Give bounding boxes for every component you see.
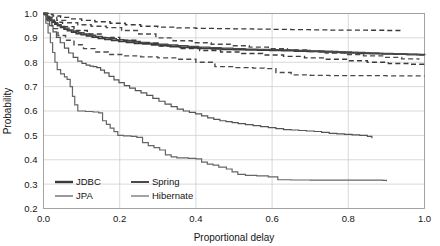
legend-label-hibernate: Hibernate <box>152 190 193 201</box>
y-tick-label: 0.6 <box>24 105 37 116</box>
y-tick-label: 0.8 <box>24 57 37 68</box>
chart-container: 0.00.20.40.60.81.0 0.20.30.40.50.60.70.8… <box>0 0 440 246</box>
y-tick-label: 1.0 <box>24 8 37 19</box>
y-tick-label: 0.9 <box>24 32 37 43</box>
y-tick-label: 0.5 <box>24 130 37 141</box>
y-tick-label: 0.7 <box>24 81 37 92</box>
y-tick-label: 0.2 <box>24 203 37 214</box>
x-tick-label: 0.2 <box>113 213 126 224</box>
legend-label-jdbc: JDBC <box>76 176 101 187</box>
y-tick-label: 0.4 <box>24 154 37 165</box>
x-tick-label: 0.8 <box>342 213 355 224</box>
x-tick-label: 0.4 <box>189 213 202 224</box>
x-tick-label: 1.0 <box>418 213 431 224</box>
survival-curve-chart: 0.00.20.40.60.81.0 0.20.30.40.50.60.70.8… <box>0 0 440 246</box>
y-tick-label: 0.3 <box>24 179 37 190</box>
y-axis-title: Probability <box>2 88 13 135</box>
legend-label-spring: Spring <box>152 176 179 187</box>
y-axis-tick-labels: 0.20.30.40.50.60.70.80.91.0 <box>24 8 37 214</box>
x-tick-label: 0.6 <box>265 213 278 224</box>
x-axis-title: Proportional delay <box>194 232 275 243</box>
legend-label-jpa: JPA <box>76 190 93 201</box>
x-tick-label: 0.0 <box>37 213 50 224</box>
